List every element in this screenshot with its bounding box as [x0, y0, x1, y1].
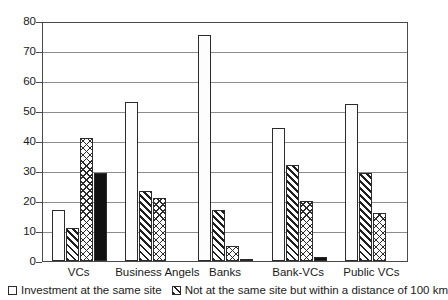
bar: [52, 210, 65, 261]
y-axis-tick-label: 10: [6, 226, 36, 238]
x-axis: VCsBusiness AngelsBanksBank-VCsPublic VC…: [0, 266, 433, 280]
bar: [212, 210, 225, 261]
x-axis-tick-label: Bank-VCs: [262, 266, 335, 278]
bar: [272, 128, 285, 262]
plot-area: [42, 22, 408, 262]
legend-swatch-icon: [8, 286, 17, 295]
x-axis-tick-label: Public VCs: [335, 266, 408, 278]
bar: [198, 35, 211, 262]
bar: [286, 165, 299, 261]
bar: [240, 259, 253, 261]
legend-label: Investment at the same site: [21, 284, 162, 296]
bar-group: [116, 23, 189, 261]
bar-group: [189, 23, 262, 261]
bar: [66, 228, 79, 261]
bar-groups: [43, 23, 407, 261]
x-axis-tick-label: Business Angels: [115, 266, 188, 278]
bar: [153, 198, 166, 261]
y-axis-tick-label: 50: [6, 106, 36, 118]
y-axis-tick-label: 40: [6, 136, 36, 148]
bar-group: [43, 23, 116, 261]
bar: [94, 173, 107, 262]
bar: [300, 201, 313, 261]
y-axis-tick-label: 70: [6, 46, 36, 58]
bar: [125, 102, 138, 261]
legend-item: Not at the same site but within a distan…: [172, 284, 448, 296]
y-axis-tick-label: 80: [6, 16, 36, 28]
bar-group: [263, 23, 336, 261]
bar: [314, 257, 327, 262]
y-axis-tick: [36, 262, 42, 263]
bar-group: [336, 23, 409, 261]
bar: [139, 191, 152, 262]
chart-legend: Investment at the same siteNot at the sa…: [8, 282, 429, 298]
x-axis-tick-label: VCs: [42, 266, 115, 278]
legend-swatch-icon: [172, 286, 181, 295]
bar: [373, 213, 386, 261]
bar: [226, 246, 239, 261]
bar: [80, 138, 93, 261]
x-axis-tick-label: Banks: [188, 266, 261, 278]
legend-label: Not at the same site but within a distan…: [185, 284, 448, 296]
bar: [345, 104, 358, 262]
y-axis-tick-label: 20: [6, 196, 36, 208]
bar: [359, 173, 372, 262]
y-axis-tick-label: 30: [6, 166, 36, 178]
legend-item: Investment at the same site: [8, 284, 162, 296]
y-axis-tick-label: 60: [6, 76, 36, 88]
